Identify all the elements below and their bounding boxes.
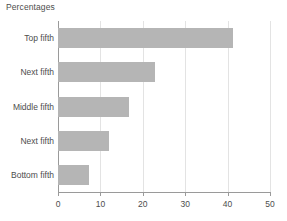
x-tick-label: 50: [258, 199, 282, 210]
category-label: Top fifth: [0, 33, 54, 43]
tick-mark: [270, 192, 271, 196]
bar: [58, 131, 109, 151]
bar: [58, 97, 129, 117]
x-tick-label: 20: [131, 199, 155, 210]
gridline: [270, 21, 271, 192]
tick-mark: [100, 192, 101, 196]
x-tick-label: 10: [88, 199, 112, 210]
x-tick-label: 30: [173, 199, 197, 210]
tick-mark: [228, 192, 229, 196]
bar: [58, 62, 155, 82]
plot-area: [58, 21, 270, 192]
category-label: Bottom fifth: [0, 170, 54, 180]
bar: [58, 165, 89, 185]
bar: [58, 28, 233, 48]
y-axis-category-labels: Top fifthNext fifthMiddle fifthNext fift…: [0, 0, 54, 221]
bar-chart: Percentages 01020304050 Top fifthNext fi…: [0, 0, 287, 221]
x-tick-label: 40: [216, 199, 240, 210]
tick-mark: [185, 192, 186, 196]
tick-mark: [58, 192, 59, 196]
tick-mark: [143, 192, 144, 196]
category-label: Next fifth: [0, 67, 54, 77]
category-label: Middle fifth: [0, 102, 54, 112]
category-label: Next fifth: [0, 136, 54, 146]
x-axis-line: [58, 192, 271, 193]
